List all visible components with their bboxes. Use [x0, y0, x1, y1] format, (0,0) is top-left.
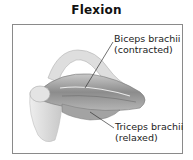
triceps-label: Triceps brachii (relaxed) [115, 121, 183, 143]
triceps-label-state: (relaxed) [115, 132, 183, 143]
triceps-label-name: Triceps brachii [115, 121, 183, 132]
biceps-label-state: (contracted) [114, 44, 181, 55]
biceps-label-name: Biceps brachii [114, 33, 181, 44]
biceps-label: Biceps brachii (contracted) [114, 33, 181, 55]
